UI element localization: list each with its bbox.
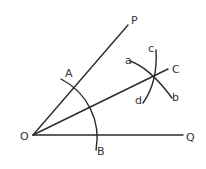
label-a-small: a (125, 54, 132, 67)
arc-a-b (130, 61, 172, 98)
geometry-diagram: O P Q A B C a b c d (0, 0, 206, 169)
arc-ab (61, 79, 97, 150)
label-d-small: d (135, 94, 142, 107)
label-b-small: b (172, 91, 179, 104)
label-b: B (97, 145, 105, 158)
label-o: O (20, 130, 29, 143)
ray-op (33, 25, 128, 135)
label-c-small: c (148, 42, 154, 55)
label-a: A (65, 67, 73, 80)
ray-oc-bisector (33, 69, 168, 135)
label-p: P (131, 14, 138, 27)
label-c-point: C (172, 63, 180, 76)
label-q: Q (186, 131, 195, 144)
arc-c-d (143, 50, 156, 103)
